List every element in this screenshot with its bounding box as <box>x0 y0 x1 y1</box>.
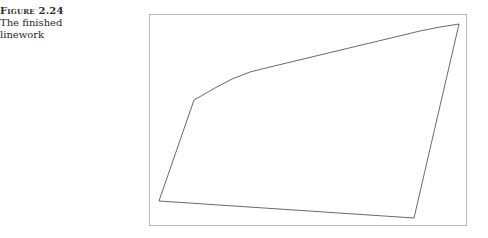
linework-figure <box>0 0 488 238</box>
figure-frame <box>150 15 467 226</box>
finished-linework-polygon <box>159 24 459 218</box>
